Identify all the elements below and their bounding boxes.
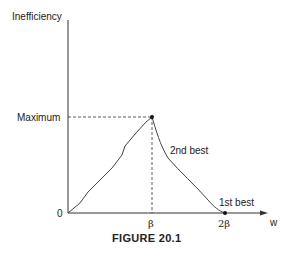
inefficiency-chart: Inefficiency Maximum 0 β 2β w 2nd best 1… xyxy=(0,0,295,258)
second-best-label: 2nd best xyxy=(170,145,209,156)
first-best-point xyxy=(223,211,227,215)
x-axis-arrow-icon xyxy=(260,211,268,216)
peak-point xyxy=(150,115,154,119)
y-axis-label: Inefficiency xyxy=(12,11,62,22)
figure-caption: FIGURE 20.1 xyxy=(112,232,181,244)
first-best-label: 1st best xyxy=(219,197,254,208)
two-beta-tick-label: 2β xyxy=(218,218,230,229)
second-best-curve xyxy=(68,117,225,213)
x-axis-label: w xyxy=(269,217,278,228)
beta-tick-label: β xyxy=(148,218,154,229)
zero-label: 0 xyxy=(57,208,63,219)
maximum-label: Maximum xyxy=(17,112,60,123)
